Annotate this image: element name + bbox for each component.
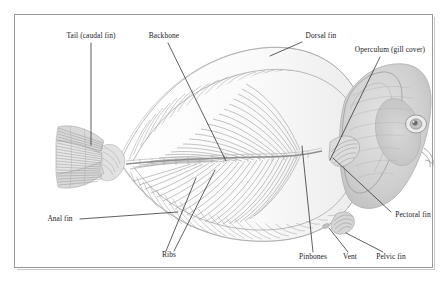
label-vent: Vent	[343, 253, 357, 260]
anal-leader-line	[80, 212, 178, 219]
figure-container: Tail (caudal fin) Backbone Dorsal fin Op…	[0, 0, 447, 285]
fish-mouth	[422, 148, 433, 167]
fish-eye	[406, 115, 427, 133]
label-backbone: Backbone	[149, 32, 179, 39]
pelvic-leader-line	[346, 233, 383, 252]
label-ribs: Ribs	[162, 251, 176, 258]
label-tail: Tail (caudal fin)	[66, 32, 115, 39]
label-pelvic-fin: Pelvic fin	[376, 253, 406, 260]
label-pectoral-fin: Pectoral fin	[395, 211, 430, 218]
flatfish-skeleton-illustration	[0, 0, 447, 285]
label-pinbones: Pinbones	[299, 253, 327, 260]
label-operculum: Operculum (gill cover)	[355, 46, 425, 53]
tail-caudal-fin	[56, 126, 104, 188]
caudal-peduncle	[100, 144, 125, 180]
label-dorsal-fin: Dorsal fin	[306, 32, 337, 39]
label-anal-fin: Anal fin	[47, 215, 72, 222]
